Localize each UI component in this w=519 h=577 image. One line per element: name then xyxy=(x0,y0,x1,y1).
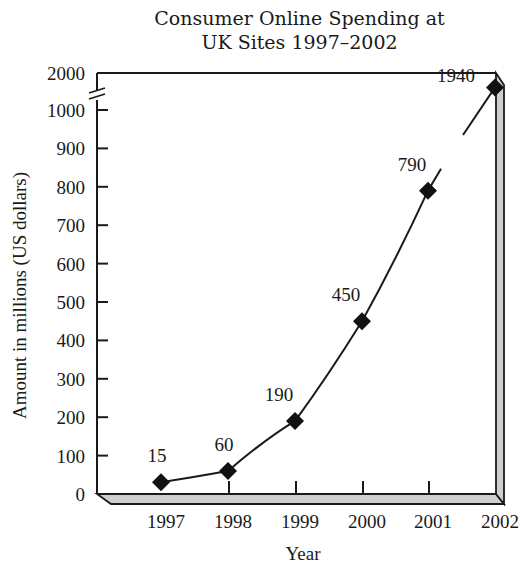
y-tick-label: 2000 xyxy=(47,63,85,84)
x-tick-label: 2002 xyxy=(481,511,519,532)
data-label: 60 xyxy=(215,434,234,455)
data-line xyxy=(161,169,441,483)
y-tick-label: 500 xyxy=(57,292,86,313)
data-point-marker xyxy=(152,473,170,491)
data-point-marker xyxy=(286,412,304,430)
y-tick-label: 200 xyxy=(57,407,86,428)
data-point-marker xyxy=(353,312,371,330)
x-tick-label: 1999 xyxy=(281,511,319,532)
x-tick-label: 2000 xyxy=(348,511,386,532)
y-tick-label: 600 xyxy=(57,254,86,275)
y-tick-label: 100 xyxy=(57,446,86,467)
x-axis-title: Year xyxy=(285,543,321,564)
line-chart: 0100200300400500600700800900100020001997… xyxy=(0,0,519,577)
y-tick-label: 0 xyxy=(76,484,86,505)
data-label: 1940 xyxy=(437,65,475,86)
data-label: 190 xyxy=(265,384,294,405)
y-axis-title: Amount in millions (US dollars) xyxy=(9,172,31,419)
y-tick-label: 700 xyxy=(57,215,86,236)
x-tick-label: 1997 xyxy=(147,511,185,532)
x-tick-label: 1998 xyxy=(214,511,252,532)
x-tick-label: 2001 xyxy=(414,511,452,532)
y-tick-label: 1000 xyxy=(47,100,85,121)
data-point-marker xyxy=(419,182,437,200)
chart-floor xyxy=(97,494,504,504)
y-tick-label: 800 xyxy=(57,177,86,198)
data-line-after-break xyxy=(463,87,495,135)
y-tick-label: 400 xyxy=(57,330,86,351)
y-tick-label: 900 xyxy=(57,138,86,159)
data-label: 450 xyxy=(332,284,361,305)
axis-break-mark xyxy=(89,94,105,99)
chart-right-wall xyxy=(496,73,504,504)
y-tick-label: 300 xyxy=(57,369,86,390)
data-label: 790 xyxy=(398,154,427,175)
data-label: 15 xyxy=(148,445,167,466)
